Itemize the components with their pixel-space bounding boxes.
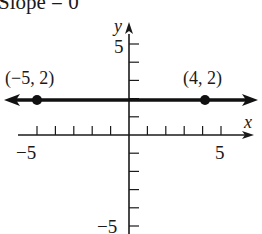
chart-figure: Slope = 0 <box>0 0 262 234</box>
point-neg5-2 <box>32 95 42 105</box>
y-axis-label: y <box>112 16 122 36</box>
y-axis-arrow-icon <box>125 22 133 34</box>
x-tick-label-5: 5 <box>215 142 225 163</box>
x-axis-label: x <box>243 112 252 132</box>
y-tick-label-neg5: −5 <box>97 216 117 234</box>
point-label-2: (4, 2) <box>183 68 222 89</box>
x-tick-label-neg5: −5 <box>16 142 36 163</box>
point-label-1: (−5, 2) <box>5 68 54 89</box>
chart-plot: (−5, 2) (4, 2) y 5 x −5 5 −5 <box>0 0 262 234</box>
point-4-2 <box>200 95 210 105</box>
y-tick-label-5: 5 <box>114 36 124 57</box>
